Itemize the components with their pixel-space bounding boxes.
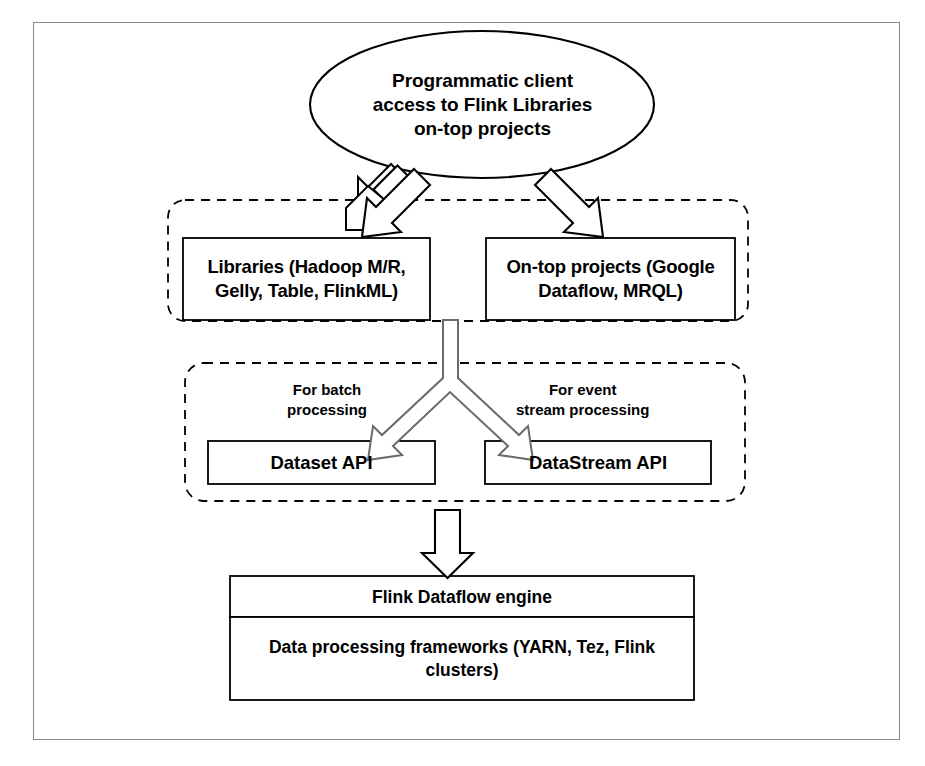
on-top-projects-box — [486, 238, 735, 320]
programmatic-client-ellipse — [310, 31, 654, 178]
diagram-vector-layer — [0, 0, 925, 766]
arrow-ellipse-to-ontop-projects — [535, 169, 603, 237]
data-processing-frameworks-box — [230, 617, 694, 700]
diagram-canvas: Programmatic client access to Flink Libr… — [0, 0, 925, 766]
arrow-libraries-to-apis-split — [368, 320, 533, 460]
flink-dataflow-engine-box — [230, 576, 694, 617]
libraries-box — [183, 238, 430, 320]
dataset-api-box — [208, 441, 435, 484]
arrow-apis-to-engine — [422, 510, 473, 578]
